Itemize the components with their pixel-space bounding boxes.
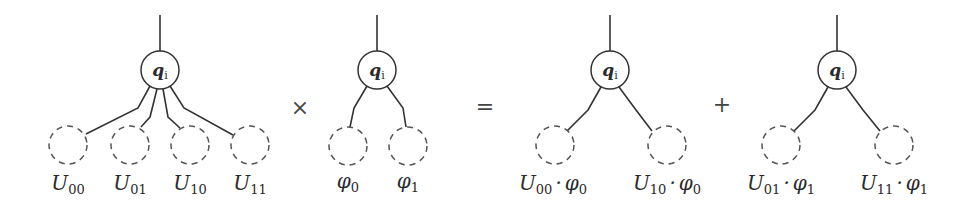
tensor-tree-diagram: qi U00 U01 U10 U11 × qi φ0 φ1 = qi U00·φ… [0, 0, 974, 204]
times-operator: × [291, 95, 309, 120]
edge-left [794, 87, 828, 131]
plus-operator: + [713, 92, 731, 117]
label-u01-phi1: U01·φ1 [747, 171, 815, 197]
label-u01: U01 [113, 171, 146, 197]
equals-operator: = [476, 94, 494, 119]
label-u11-phi1: U11·φ1 [860, 171, 928, 197]
leaf-u11 [231, 126, 269, 164]
edge-right [619, 87, 652, 131]
u-tree: qi U00 U01 U10 U11 [49, 15, 269, 197]
leaf-u10-phi0 [648, 126, 686, 164]
leaf-u10 [171, 126, 209, 164]
leaf-phi0 [329, 127, 367, 165]
edge-phi0 [350, 86, 367, 127]
label-u11: U11 [233, 171, 266, 197]
edge-phi1 [387, 86, 406, 127]
leaf-u01 [111, 126, 149, 164]
edge-right [846, 87, 880, 131]
edge-u01 [141, 89, 157, 127]
phi-tree: qi φ0 φ1 [329, 15, 427, 195]
edge-u10 [163, 89, 180, 128]
leaf-phi1 [389, 127, 427, 165]
leaf-u11-phi1 [875, 126, 913, 164]
label-phi1: φ1 [397, 169, 419, 195]
edge-left [567, 87, 601, 131]
label-u10: U10 [173, 171, 206, 197]
leaf-u00-phi0 [536, 126, 574, 164]
leaf-u00 [49, 126, 87, 164]
result-tree-0: qi U00·φ0 U10·φ0 [519, 15, 701, 197]
label-u00-phi0: U00·φ0 [519, 171, 587, 197]
label-u10-phi0: U10·φ0 [633, 171, 701, 197]
result-tree-1: qi U01·φ1 U11·φ1 [747, 15, 928, 197]
label-u00: U00 [51, 171, 84, 197]
leaf-u01-phi1 [762, 126, 800, 164]
edge-u00 [86, 86, 150, 134]
label-phi0: φ0 [337, 169, 359, 195]
